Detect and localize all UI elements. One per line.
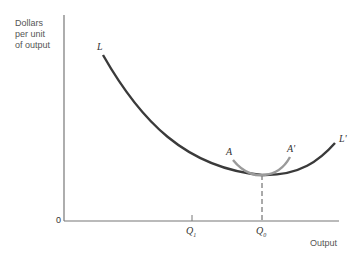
label-q0: Q0 <box>256 225 266 241</box>
label-A: A <box>226 146 232 157</box>
y-axis-label: Dollars per unit of output <box>15 18 75 51</box>
x-axis-label: Output <box>310 238 337 249</box>
y-label-line1: Dollars <box>15 18 75 29</box>
y-label-line3: of output <box>15 40 75 51</box>
label-A-prime: A' <box>287 143 295 154</box>
y-label-line2: per unit <box>15 29 75 40</box>
label-L-prime: L' <box>339 133 347 144</box>
q0-subscript: 0 <box>263 232 266 238</box>
long-run-cost-curve <box>103 55 335 175</box>
q1-subscript: 1 <box>193 232 196 238</box>
origin-label: 0 <box>56 215 61 226</box>
label-L: L <box>97 41 103 52</box>
label-q1: Q1 <box>186 225 196 241</box>
